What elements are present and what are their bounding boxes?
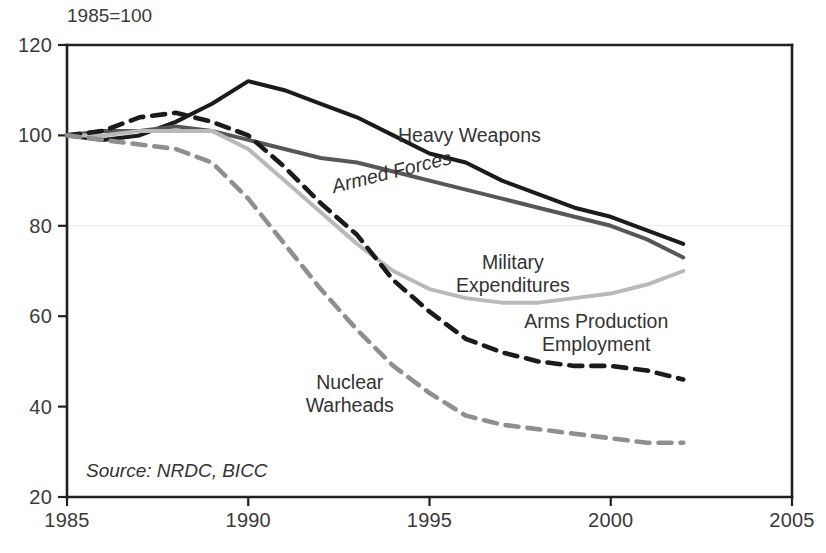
x-tick-label-2000: 2000 [588,509,633,531]
series-line-military-expenditures [67,131,683,303]
series-label-military-expenditures: MilitaryExpenditures [456,251,570,296]
y-axis-tick-labels: 20406080100120 [18,34,52,508]
series-label-line: Warheads [306,394,394,416]
series-label-line: Armed Forces [329,146,454,197]
series-label-line: Arms Production [524,310,668,332]
series-label-arms-production-employment: Arms ProductionEmployment [524,310,668,355]
x-tick-label-1995: 1995 [407,509,452,531]
x-tick-label-2005: 2005 [769,509,814,531]
unit-note: 1985=100 [67,5,152,26]
source-note: Source: NRDC, BICC [86,460,268,481]
series-annotation-labels: Heavy WeaponsArmed ForcesMilitaryExpendi… [306,124,669,415]
series-label-line: Heavy Weapons [398,124,541,146]
x-tick-label-1990: 1990 [226,509,271,531]
chart-container: 20406080100120 19851990199520002005 Heav… [0,0,826,553]
series-label-line: Military [482,251,544,273]
tick-marks [58,45,792,506]
series-label-heavy-weapons: Heavy Weapons [398,124,541,146]
series-label-line: Nuclear [316,371,384,393]
y-tick-label-120: 120 [18,34,52,56]
series-label-line: Expenditures [456,274,570,296]
y-tick-label-40: 40 [29,396,52,418]
y-tick-label-80: 80 [29,215,52,237]
series-label-nuclear-warheads: NuclearWarheads [306,371,394,416]
y-tick-label-20: 20 [29,486,52,508]
x-tick-label-1985: 1985 [44,509,89,531]
y-tick-label-100: 100 [18,124,52,146]
series-label-line: Employment [542,333,651,355]
series-label-armed-forces: Armed Forces [329,146,454,197]
y-tick-label-60: 60 [29,305,52,327]
x-axis-tick-labels: 19851990199520002005 [44,509,814,531]
line-chart: 20406080100120 19851990199520002005 Heav… [0,0,826,553]
